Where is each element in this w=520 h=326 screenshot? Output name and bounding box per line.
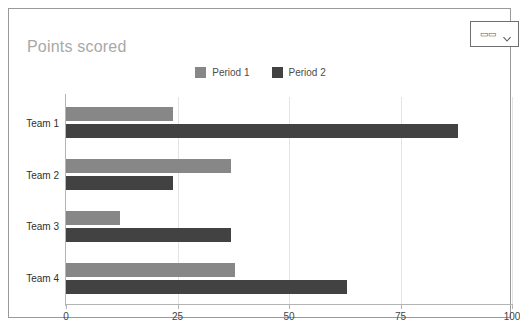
y-axis-category-label: Team 2 (14, 169, 59, 180)
x-axis-tick-label: 50 (283, 311, 294, 322)
bar (66, 176, 173, 190)
x-axis-tick-label: 0 (63, 311, 69, 322)
legend-item[interactable]: Period 2 (272, 67, 326, 78)
chart-type-dropdown-button[interactable]: ▭▭ (470, 21, 519, 47)
page-title: Points scored (27, 38, 127, 56)
bar (66, 228, 231, 242)
bar (66, 107, 173, 121)
bar-chart-icon: ▭▭ (480, 30, 497, 39)
bar (66, 263, 235, 277)
bar-group (66, 97, 512, 149)
x-axis-tick (401, 304, 402, 309)
bar (66, 211, 120, 225)
y-axis-category-label: Team 3 (14, 221, 59, 232)
chevron-down-icon (502, 30, 510, 38)
chart-frame: Points scored ▭▭ Period 1Period 2 025507… (8, 8, 511, 318)
bar (66, 280, 347, 294)
x-axis-tick (66, 304, 67, 309)
legend-swatch-icon (195, 67, 206, 78)
x-axis-tick (512, 304, 513, 309)
bar-group (66, 252, 512, 304)
x-axis-tick-label: 100 (504, 311, 520, 322)
chart-legend: Period 1Period 2 (9, 67, 512, 78)
legend-label: Period 2 (289, 67, 326, 78)
legend-swatch-icon (272, 67, 283, 78)
x-axis-tick (178, 304, 179, 309)
x-axis-tick (289, 304, 290, 309)
bar-group (66, 201, 512, 253)
bar (66, 159, 231, 173)
plot-area: 0255075100Team 1Team 2Team 3Team 4 (66, 97, 512, 304)
legend-label: Period 1 (212, 67, 249, 78)
y-axis-category-label: Team 1 (14, 117, 59, 128)
gridline (512, 97, 513, 304)
legend-item[interactable]: Period 1 (195, 67, 249, 78)
bar (66, 124, 458, 138)
y-axis-category-label: Team 4 (14, 273, 59, 284)
x-axis-tick-label: 25 (172, 311, 183, 322)
x-axis-tick-label: 75 (395, 311, 406, 322)
bar-group (66, 149, 512, 201)
